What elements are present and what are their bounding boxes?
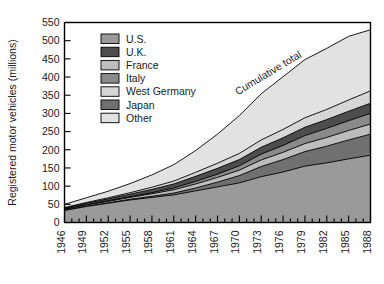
legend-swatch-japan bbox=[101, 100, 119, 110]
y-tick-label: 100 bbox=[42, 180, 60, 192]
legend-label-u-k: U.K. bbox=[126, 46, 146, 58]
stacked-area-chart: 050100150200250300350400450500550 194619… bbox=[0, 0, 384, 284]
y-tick-label: 200 bbox=[42, 144, 60, 156]
legend-swatch-west-germany bbox=[101, 87, 119, 97]
y-axis-title: Registered motor vehicles (millions) bbox=[6, 39, 18, 205]
legend-swatch-u-k bbox=[101, 47, 119, 57]
x-tick-label-1985: 1985 bbox=[339, 230, 351, 254]
x-tick-label-1982: 1982 bbox=[317, 230, 329, 254]
legend-swatch-other bbox=[101, 113, 119, 123]
y-tick-label: 50 bbox=[48, 198, 60, 210]
legend-label-france: France bbox=[126, 59, 159, 71]
x-tick-label-1970: 1970 bbox=[229, 230, 241, 254]
y-tick-label: 250 bbox=[42, 125, 60, 137]
x-tick-label-1979: 1979 bbox=[295, 230, 307, 254]
y-tick-label: 450 bbox=[42, 53, 60, 65]
y-tick-label: 550 bbox=[42, 16, 60, 28]
legend-label-west-germany: West Germany bbox=[126, 85, 197, 97]
legend-swatch-france bbox=[101, 60, 119, 70]
x-tick-label-1967: 1967 bbox=[208, 230, 220, 254]
legend-swatch-italy bbox=[101, 74, 119, 84]
y-tick-label: 300 bbox=[42, 107, 60, 119]
y-tick-label: 0 bbox=[54, 216, 60, 228]
legend-label-u-s: U.S. bbox=[126, 33, 146, 45]
area-bands-group bbox=[65, 30, 371, 223]
x-tick-label-1964: 1964 bbox=[186, 230, 198, 254]
x-tick-label-1955: 1955 bbox=[120, 230, 132, 254]
x-tick-label-1952: 1952 bbox=[98, 230, 110, 254]
x-tick-label-1961: 1961 bbox=[164, 230, 176, 254]
y-tick-label: 400 bbox=[42, 71, 60, 83]
chart-figure: 050100150200250300350400450500550 194619… bbox=[0, 0, 384, 284]
chart-legend: U.S.U.K.FranceItalyWest GermanyJapanOthe… bbox=[101, 33, 197, 124]
y-axis-ticks: 050100150200250300350400450500550 bbox=[42, 16, 71, 228]
legend-label-other: Other bbox=[126, 112, 153, 124]
legend-label-italy: Italy bbox=[126, 72, 146, 84]
y-tick-label: 350 bbox=[42, 89, 60, 101]
x-tick-label-1976: 1976 bbox=[273, 230, 285, 254]
x-tick-label-1958: 1958 bbox=[142, 230, 154, 254]
x-tick-label-1949: 1949 bbox=[76, 230, 88, 254]
x-tick-label-1946: 1946 bbox=[55, 230, 67, 254]
x-tick-label-1973: 1973 bbox=[251, 230, 263, 254]
legend-label-japan: Japan bbox=[126, 99, 155, 111]
y-tick-label: 500 bbox=[42, 34, 60, 46]
x-tick-label-1988: 1988 bbox=[361, 230, 373, 254]
legend-swatch-u-s bbox=[101, 34, 119, 44]
y-tick-label: 150 bbox=[42, 162, 60, 174]
